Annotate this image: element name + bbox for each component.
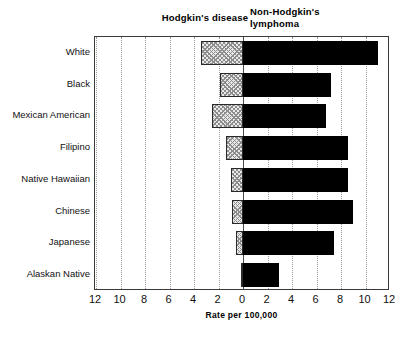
bar-hodgkins-japanese <box>236 231 243 255</box>
bar-row <box>95 263 388 287</box>
bar-hodgkins-native-hawaiian <box>231 168 243 192</box>
bar-row <box>95 136 388 160</box>
bar-non-hodgkins-alaskan-native <box>243 263 279 287</box>
left-panel-title: Hodgkin's disease <box>150 12 260 24</box>
bar-row <box>95 168 388 192</box>
bar-hodgkins-chinese <box>232 200 243 224</box>
bar-row <box>95 200 388 224</box>
y-axis-label-filipino: Filipino <box>2 141 90 153</box>
bar-non-hodgkins-japanese <box>243 231 334 255</box>
x-axis-tick-group: 12108642024681012 <box>0 293 409 309</box>
bar-hodgkins-mexican-american <box>212 104 243 128</box>
y-axis-label-black: Black <box>2 78 90 90</box>
bar-row <box>95 231 388 255</box>
bar-hodgkins-filipino <box>226 136 243 160</box>
bar-row <box>95 41 388 65</box>
y-axis-label-native-hawaiian: Native Hawaiian <box>2 173 90 185</box>
y-axis-label-white: White <box>2 46 90 58</box>
plot-area <box>94 36 389 290</box>
right-panel-title: Non-Hodgkin's lymphoma <box>250 6 370 29</box>
x-axis-title: Rate per 100,000 <box>94 310 389 320</box>
y-axis-label-japanese: Japanese <box>2 236 90 248</box>
bar-non-hodgkins-filipino <box>243 136 348 160</box>
y-axis-label-mexican-american: Mexican American <box>2 109 90 121</box>
bar-hodgkins-black <box>220 73 243 97</box>
chart-container: Hodgkin's disease Non-Hodgkin's lymphoma… <box>0 0 409 340</box>
bar-non-hodgkins-chinese <box>243 200 353 224</box>
y-axis-label-alaskan-native: Alaskan Native <box>2 268 90 280</box>
y-axis-label-chinese: Chinese <box>2 205 90 217</box>
bar-non-hodgkins-mexican-american <box>243 104 326 128</box>
x-axis-tick: 12 <box>374 293 404 305</box>
bar-non-hodgkins-black <box>243 73 331 97</box>
bar-non-hodgkins-white <box>243 41 378 65</box>
bar-hodgkins-white <box>201 41 243 65</box>
y-axis-label-group: WhiteBlackMexican AmericanFilipinoNative… <box>0 36 90 290</box>
bar-row <box>95 104 388 128</box>
bar-non-hodgkins-native-hawaiian <box>243 168 348 192</box>
bar-row <box>95 73 388 97</box>
